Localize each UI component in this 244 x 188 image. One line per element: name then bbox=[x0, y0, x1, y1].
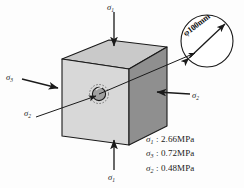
stress-value: 0.72MPa bbox=[161, 148, 194, 158]
stress-label-left: σ3 bbox=[6, 72, 13, 83]
figure-canvas bbox=[0, 0, 244, 188]
sigma-subscript-top: 1 bbox=[111, 7, 114, 13]
cube-body bbox=[62, 40, 167, 145]
stress-value-row: σ2 : 0.48MPa bbox=[146, 163, 194, 177]
stress-cube-figure: φ100mm σ1 σ1 σ3 σ2 σ2 σ1 : 2.66MPa σ3 : … bbox=[0, 0, 244, 188]
stress-separator: : bbox=[154, 134, 161, 144]
stress-value: 2.66MPa bbox=[161, 134, 194, 144]
stress-separator: : bbox=[154, 163, 161, 173]
sigma-subscript-right: 2 bbox=[196, 95, 199, 101]
stress-label-diagonal: σ2 bbox=[24, 108, 31, 119]
stress-value: 0.48MPa bbox=[161, 163, 194, 173]
sigma-subscript-left: 3 bbox=[10, 77, 13, 83]
stress-value-list: σ1 : 2.66MPa σ3 : 0.72MPa σ2 : 0.48MPa bbox=[146, 134, 194, 177]
stress-arrow-left bbox=[22, 79, 58, 88]
stress-value-row: σ3 : 0.72MPa bbox=[146, 148, 194, 162]
stress-label-right: σ2 bbox=[192, 90, 199, 101]
stress-label-top: σ1 bbox=[107, 2, 114, 13]
sigma-subscript-diagonal: 2 bbox=[28, 113, 31, 119]
stress-value-row: σ1 : 2.66MPa bbox=[146, 134, 194, 148]
sigma-subscript-bottom: 1 bbox=[112, 177, 115, 183]
stress-label-bottom: σ1 bbox=[108, 172, 115, 183]
stress-separator: : bbox=[154, 148, 161, 158]
cube-front-face bbox=[62, 59, 129, 145]
